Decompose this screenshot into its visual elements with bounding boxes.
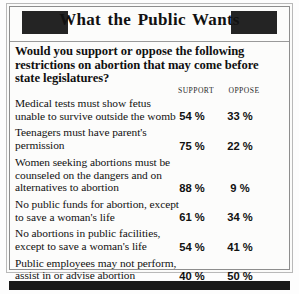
- oppose-value: 41 %: [214, 241, 266, 253]
- header-divider: [10, 41, 289, 42]
- row-values: 61 %34 %: [169, 210, 277, 223]
- oppose-value: 33 %: [214, 110, 266, 122]
- results-table: Medical tests must show fetus unable to …: [15, 97, 277, 286]
- support-value: 88 %: [166, 182, 218, 194]
- row-values: 54 %41 %: [169, 240, 277, 253]
- infographic-panel: What the Public Wants Would you support …: [0, 0, 299, 294]
- row-label: Public employees may not perform, assist…: [15, 257, 183, 282]
- row-label: Women seeking abortions must be counsele…: [15, 156, 183, 194]
- table-row: Public employees may not perform, assist…: [15, 257, 277, 282]
- support-value: 61 %: [166, 211, 218, 223]
- row-values: 88 %9 %: [169, 181, 277, 194]
- table-row: No abortions in public facilities, excep…: [15, 227, 277, 252]
- row-label: No public funds for abortion, except to …: [15, 198, 183, 223]
- column-header-oppose: OPPOSE: [216, 86, 272, 95]
- row-label: Medical tests must show fetus unable to …: [15, 97, 183, 122]
- page-title: What the Public Wants: [10, 10, 289, 30]
- oppose-value: 34 %: [214, 211, 266, 223]
- support-value: 75 %: [166, 140, 218, 152]
- table-row: No public funds for abortion, except to …: [15, 198, 277, 223]
- oppose-value: 22 %: [214, 140, 266, 152]
- row-label: Teenagers must have parent's permission: [15, 126, 183, 151]
- table-row: Medical tests must show fetus unable to …: [15, 97, 277, 122]
- table-row: Teenagers must have parent's permission7…: [15, 126, 277, 151]
- oppose-value: 9 %: [214, 182, 266, 194]
- row-values: 75 %22 %: [169, 139, 277, 152]
- support-value: 54 %: [166, 241, 218, 253]
- row-label: No abortions in public facilities, excep…: [15, 227, 183, 252]
- table-row: Women seeking abortions must be counsele…: [15, 156, 277, 194]
- support-value: 54 %: [166, 110, 218, 122]
- header: What the Public Wants: [10, 7, 289, 40]
- row-values: 54 %33 %: [169, 109, 277, 122]
- question-text: Would you support or oppose the followin…: [15, 45, 277, 86]
- bottom-rule: [9, 281, 290, 290]
